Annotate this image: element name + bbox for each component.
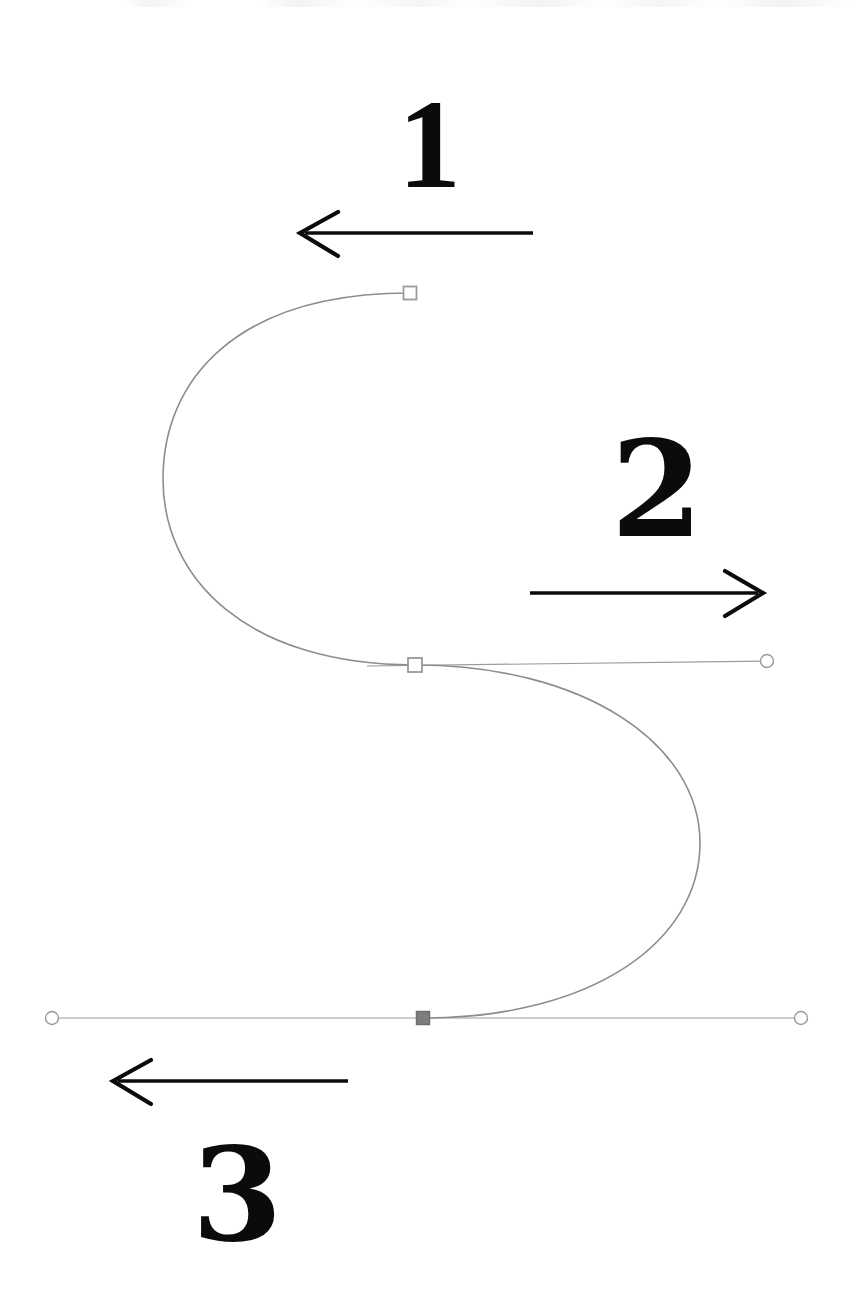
- arrow-3-left: [113, 1060, 348, 1104]
- annotation-arrows-group: [113, 212, 763, 1104]
- node-middle-square[interactable]: [408, 658, 422, 672]
- anchor-nodes-group: [404, 287, 430, 1025]
- bezier-curve-path[interactable]: [163, 293, 700, 1018]
- node-bottom-square[interactable]: [417, 1012, 430, 1025]
- arrow-2-right: [530, 571, 763, 616]
- control-point-handles-group: [46, 655, 808, 1025]
- annotation-label-1: 1: [398, 82, 461, 208]
- annotation-label-2: 2: [611, 424, 703, 556]
- handle-middle-right-circle[interactable]: [761, 655, 774, 668]
- figure-canvas: 1 2 3: [0, 0, 855, 1311]
- annotation-label-3: 3: [192, 1130, 282, 1260]
- handle-bottom-right-circle[interactable]: [795, 1012, 808, 1025]
- handle-lines-group: [52, 661, 801, 1018]
- arrow-1-left: [300, 212, 533, 256]
- node-top-square[interactable]: [404, 287, 417, 300]
- handle-bottom-left-circle[interactable]: [46, 1012, 59, 1025]
